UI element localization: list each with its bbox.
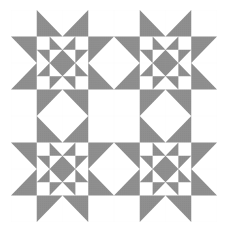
quilt-pattern: [11, 10, 217, 222]
quilt-svg: [11, 10, 217, 222]
